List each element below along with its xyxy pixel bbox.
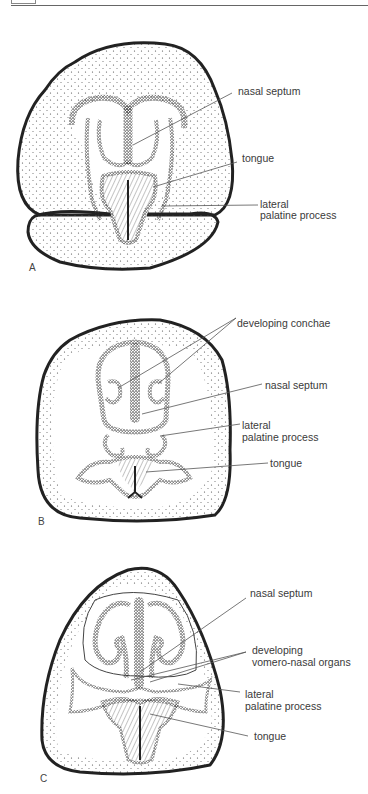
panel-letter-a: A — [29, 262, 36, 273]
panel-a-drawing — [18, 43, 233, 269]
label-b-nasal-septum: nasal septum — [265, 380, 327, 391]
panel-b-drawing — [37, 320, 230, 521]
label-b-developing-conchae: developing conchae — [237, 318, 330, 329]
panel-letter-b: B — [38, 516, 45, 527]
label-c-developing: developing — [252, 645, 303, 656]
panel-letter-c: C — [40, 773, 47, 784]
embryo-cross-sections — [0, 0, 368, 794]
panel-c-drawing — [42, 568, 224, 774]
label-b-palatine-process: palatine process — [242, 432, 318, 443]
label-c-lateral: lateral — [245, 689, 274, 700]
label-b-tongue: tongue — [270, 458, 302, 469]
label-a-palatine-process: palatine process — [260, 210, 336, 221]
label-a-nasal-septum: nasal septum — [238, 86, 300, 97]
label-a-tongue: tongue — [242, 153, 274, 164]
label-c-nasal-septum: nasal septum — [250, 588, 312, 599]
label-c-tongue: tongue — [254, 731, 286, 742]
label-c-palatine-process: palatine process — [245, 701, 321, 712]
label-b-lateral: lateral — [242, 420, 271, 431]
label-c-vomero-nasal-organs: vomero-nasal organs — [252, 657, 351, 668]
